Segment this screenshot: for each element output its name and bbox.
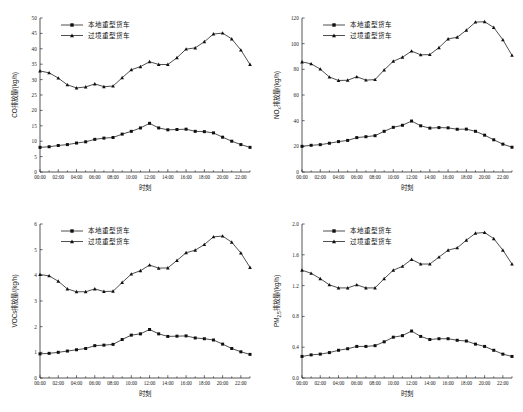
y-axis-title: PM2.5排放量/(kg/h) xyxy=(272,275,282,327)
triangle-marker-icon xyxy=(491,237,495,240)
x-tick-label: 10:00 xyxy=(387,174,399,180)
triangle-marker-icon xyxy=(148,60,152,63)
x-tick-label: 06:00 xyxy=(89,174,101,180)
square-marker-icon xyxy=(327,351,330,354)
y-tick-label: 10 xyxy=(32,138,38,144)
square-marker-icon xyxy=(39,352,42,355)
x-tick-label: 04:00 xyxy=(71,174,83,180)
square-marker-icon xyxy=(501,143,504,146)
square-marker-icon xyxy=(364,135,367,138)
triangle-marker-icon xyxy=(354,283,358,286)
square-marker-icon xyxy=(355,136,358,139)
svg-text:NOx排放量/(kg/h): NOx排放量/(kg/h) xyxy=(272,71,282,119)
square-marker-icon xyxy=(66,143,69,146)
svg-text:CO排放量/(kg/h): CO排放量/(kg/h) xyxy=(10,72,19,118)
series-line-local xyxy=(302,121,512,147)
square-marker-icon xyxy=(75,142,78,145)
triangle-marker-icon xyxy=(139,65,143,68)
square-marker-icon xyxy=(483,345,486,348)
triangle-marker-icon xyxy=(510,53,514,56)
legend-label: 本地重型货车 xyxy=(88,20,130,29)
square-marker-icon xyxy=(437,126,440,129)
square-marker-icon xyxy=(337,140,340,143)
square-marker-icon xyxy=(355,345,358,348)
triangle-marker-icon xyxy=(409,258,413,261)
y-tick-label: 0.4 xyxy=(292,344,299,350)
y-tick-label: 60 xyxy=(293,92,299,98)
square-marker-icon xyxy=(185,334,188,337)
x-tick-label: 16:00 xyxy=(180,380,192,386)
triangle-marker-icon xyxy=(93,82,97,85)
square-marker-icon xyxy=(130,130,133,133)
square-marker-icon xyxy=(230,140,233,143)
y-tick-label: 2 xyxy=(34,324,37,330)
y-tick-label: 25 xyxy=(32,92,38,98)
y-tick-label: 5 xyxy=(34,247,37,253)
x-tick-label: 12:00 xyxy=(144,174,156,180)
square-marker-icon xyxy=(300,145,303,148)
x-tick-label: 18:00 xyxy=(199,380,211,386)
square-marker-icon xyxy=(309,144,312,147)
x-axis-title: 时刻 xyxy=(139,389,151,398)
y-tick-label: 35 xyxy=(32,61,38,67)
x-axis-title: 时刻 xyxy=(401,183,413,192)
square-marker-icon xyxy=(48,145,51,148)
legend-label: 本地重型货车 xyxy=(88,226,130,235)
legend-label: 过境重型货车 xyxy=(350,31,392,40)
triangle-marker-icon xyxy=(318,277,322,280)
x-tick-label: 00:00 xyxy=(34,174,46,180)
y-tick-label: 100 xyxy=(291,41,299,47)
square-marker-icon xyxy=(194,130,197,133)
x-tick-label: 02:00 xyxy=(314,380,326,386)
triangle-marker-icon xyxy=(93,287,97,290)
square-marker-icon xyxy=(428,127,431,130)
triangle-marker-icon xyxy=(193,248,197,251)
x-tick-label: 10:00 xyxy=(125,174,137,180)
chart-svg-vocs: 012345600:0002:0004:0006:0008:0010:0012:… xyxy=(0,206,262,412)
square-marker-icon xyxy=(84,347,87,350)
square-marker-icon xyxy=(346,139,349,142)
square-marker-icon xyxy=(203,337,206,340)
square-marker-icon xyxy=(391,336,394,339)
y-axis-title: VOCs排放量/(kg/h) xyxy=(10,274,19,327)
square-marker-icon xyxy=(112,136,115,139)
x-tick-label: 00:00 xyxy=(34,380,46,386)
y-tick-label: 5 xyxy=(34,154,37,160)
x-tick-label: 08:00 xyxy=(107,380,119,386)
square-marker-icon xyxy=(428,338,431,341)
x-axis-title: 时刻 xyxy=(139,183,151,192)
square-marker-icon xyxy=(121,133,124,136)
chart-panel-co: 0510152025303540455000:0002:0004:0006:00… xyxy=(0,0,262,206)
x-tick-label: 16:00 xyxy=(442,380,454,386)
square-marker-icon xyxy=(166,128,169,131)
triangle-marker-icon xyxy=(38,69,42,72)
y-tick-label: 50 xyxy=(32,15,38,21)
chart-svg-pm25: 0.00.40.81.21.62.000:0002:0004:0006:0008… xyxy=(262,206,523,412)
square-marker-icon xyxy=(175,128,178,131)
x-tick-label: 00:00 xyxy=(296,174,308,180)
x-tick-label: 12:00 xyxy=(405,380,417,386)
square-marker-icon xyxy=(57,144,60,147)
x-tick-label: 14:00 xyxy=(162,380,174,386)
y-tick-label: 40 xyxy=(293,118,299,124)
y-tick-label: 15 xyxy=(32,123,38,129)
square-marker-icon xyxy=(139,332,142,335)
y-tick-label: 1.2 xyxy=(292,283,299,289)
svg-text:PM2.5排放量/(kg/h): PM2.5排放量/(kg/h) xyxy=(272,275,282,327)
square-marker-icon xyxy=(70,23,73,26)
square-marker-icon xyxy=(102,344,105,347)
square-marker-icon xyxy=(400,124,403,127)
square-marker-icon xyxy=(66,350,69,353)
legend-label: 过境重型货车 xyxy=(350,237,392,246)
figure-container: 0510152025303540455000:0002:0004:0006:00… xyxy=(0,0,523,412)
square-marker-icon xyxy=(130,334,133,337)
y-tick-label: 3 xyxy=(34,298,37,304)
triangle-marker-icon xyxy=(56,76,60,79)
square-marker-icon xyxy=(492,138,495,141)
y-tick-label: 1 xyxy=(34,349,37,355)
square-marker-icon xyxy=(510,146,513,149)
x-tick-label: 08:00 xyxy=(369,380,381,386)
square-marker-icon xyxy=(70,229,73,232)
square-marker-icon xyxy=(157,126,160,129)
square-marker-icon xyxy=(93,344,96,347)
